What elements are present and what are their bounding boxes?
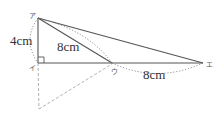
right-angle-marker xyxy=(38,57,44,63)
vertex-label-bottom-left: イ xyxy=(29,64,36,72)
dashed-diagonal-extension xyxy=(39,64,112,109)
vertex-label-right: エ xyxy=(206,61,213,69)
measure-label-4cm: 4cm xyxy=(10,33,32,48)
geometry-figure: 4cm 8cm 8cm ア イ ウ エ xyxy=(0,0,220,113)
measure-label-8cm-base: 8cm xyxy=(143,67,165,82)
vertex-label-top: ア xyxy=(29,12,36,20)
measure-label-8cm-diagonal: 8cm xyxy=(57,39,79,54)
vertex-label-middle: ウ xyxy=(111,68,118,76)
dashed-vertical-extension xyxy=(38,63,39,109)
